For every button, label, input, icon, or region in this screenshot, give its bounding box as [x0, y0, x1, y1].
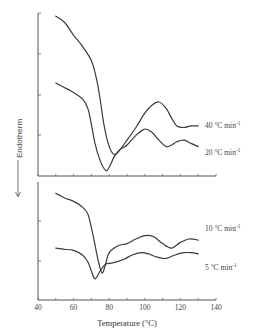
- label-40-c-per-min: 40 °C min-1: [205, 120, 241, 130]
- label-20-c-per-min: 20 °C min-1: [205, 147, 241, 157]
- x-ticks: [38, 174, 216, 300]
- curve-20-c-per-min: [56, 83, 198, 171]
- curve-10-c-per-min: [56, 193, 198, 273]
- x-tick-label: 120: [175, 303, 187, 312]
- label-5-c-per-min: 5 °C min-1: [205, 262, 237, 272]
- x-axis-label: Temperature (°C): [97, 318, 157, 328]
- x-tick-labels: 406080100120140: [34, 303, 222, 312]
- curve-5-c-per-min: [56, 248, 198, 279]
- x-tick-label: 140: [210, 303, 222, 312]
- x-tick-label: 80: [105, 303, 113, 312]
- curve-40-c-per-min: [56, 16, 198, 154]
- y-axis-label: Endotherm: [15, 119, 24, 158]
- dsc-thermogram-chart: 406080100120140 40 °C min-1 20 °C min-1 …: [0, 0, 255, 336]
- x-tick-label: 100: [139, 303, 151, 312]
- x-tick-label: 60: [70, 303, 78, 312]
- x-tick-label: 40: [34, 303, 42, 312]
- y-axis-label-group: Endotherm: [15, 119, 24, 197]
- label-10-c-per-min: 10 °C min-1: [205, 223, 241, 233]
